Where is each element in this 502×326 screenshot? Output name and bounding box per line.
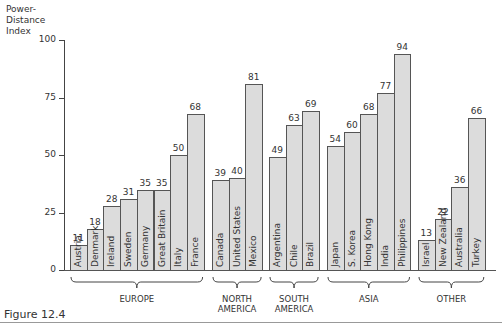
- category-label: Austria: [73, 235, 83, 267]
- group-brace: [327, 276, 411, 290]
- category-label: Brazil: [305, 242, 315, 267]
- y-axis-title-line: Power-: [6, 4, 45, 15]
- y-axis-title-line: Distance: [6, 15, 45, 26]
- category-label: Chile: [289, 244, 299, 267]
- y-tick-label: 100: [26, 34, 56, 44]
- group-brace: [70, 276, 204, 290]
- group-label-line: EUROPE: [97, 294, 177, 304]
- y-tick-label: 25: [26, 207, 56, 217]
- y-tick-label: 75: [26, 92, 56, 102]
- category-label: Germany: [140, 226, 150, 267]
- category-label: Japan: [330, 242, 340, 267]
- group-brace: [212, 276, 262, 290]
- y-tick-label: 0: [26, 264, 56, 274]
- category-label: Mexico: [248, 236, 258, 267]
- category-label: Denmark: [90, 226, 100, 267]
- category-label: United States: [232, 206, 242, 267]
- category-label: Israel: [421, 242, 431, 267]
- group-label-line: OTHER: [411, 294, 491, 304]
- group-label: ASIA: [329, 294, 409, 304]
- group-label-line: SOUTH: [254, 294, 334, 304]
- divider: [0, 322, 502, 323]
- bar-value-label: 81: [239, 72, 269, 82]
- category-label: Canada: [215, 233, 225, 267]
- bar-value-label: 66: [461, 106, 491, 116]
- category-label: India: [380, 245, 390, 267]
- y-tick: [59, 40, 64, 41]
- group-label-line: ASIA: [329, 294, 409, 304]
- y-tick-label: 50: [26, 149, 56, 159]
- category-label: Philippines: [397, 219, 407, 268]
- category-label: Great Britain: [157, 209, 167, 267]
- bar-value-label: 94: [387, 42, 417, 52]
- category-label: Argentina: [272, 223, 282, 267]
- category-label: Turkey: [471, 238, 481, 267]
- category-label: Hong Kong: [363, 218, 373, 267]
- group-label: OTHER: [411, 294, 491, 304]
- group-brace: [269, 276, 319, 290]
- category-label: Sweden: [123, 231, 133, 267]
- category-label: New Zealand: [438, 208, 448, 267]
- y-tick: [59, 270, 64, 271]
- bar-value-label: 69: [296, 99, 326, 109]
- figure-caption: Figure 12.4: [4, 308, 66, 321]
- group-label: EUROPE: [97, 294, 177, 304]
- y-axis-title: Power- Distance Index: [6, 4, 45, 37]
- category-label: S. Korea: [347, 230, 357, 267]
- category-label: Australia: [454, 227, 464, 267]
- group-brace: [418, 276, 485, 290]
- y-tick: [59, 213, 64, 214]
- group-label-line: AMERICA: [254, 304, 334, 314]
- category-label: Ireland: [106, 236, 116, 267]
- y-tick: [59, 155, 64, 156]
- y-tick: [59, 98, 64, 99]
- group-label: SOUTHAMERICA: [254, 294, 334, 314]
- category-label: France: [190, 237, 200, 267]
- category-label: Italy: [173, 247, 183, 267]
- bar-value-label: 68: [180, 102, 210, 112]
